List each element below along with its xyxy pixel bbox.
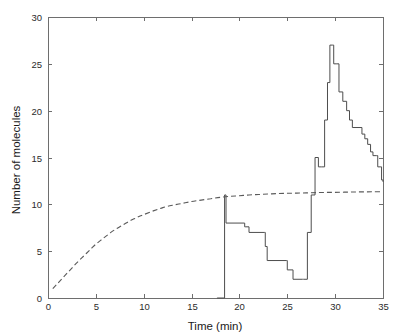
x-tick-label: 30 bbox=[330, 301, 341, 312]
x-axis-label: Time (min) bbox=[188, 320, 243, 332]
chart-figure: 05101520253035051015202530 Time (min) Nu… bbox=[0, 0, 397, 336]
y-tick-label: 20 bbox=[31, 106, 42, 117]
series-layer bbox=[53, 45, 383, 298]
y-tick-label: 30 bbox=[31, 12, 42, 23]
y-axis-label: Number of molecules bbox=[10, 105, 22, 214]
plot-canvas: 05101520253035051015202530 Time (min) Nu… bbox=[0, 0, 397, 336]
x-tick-label: 10 bbox=[139, 301, 150, 312]
tick-labels: 05101520253035051015202530 bbox=[31, 12, 388, 312]
x-tick-label: 25 bbox=[282, 301, 293, 312]
x-tick-label: 35 bbox=[378, 301, 389, 312]
y-tick-label: 10 bbox=[31, 199, 42, 210]
x-tick-label: 0 bbox=[46, 301, 51, 312]
y-tick-label: 0 bbox=[37, 293, 42, 304]
tick-marks bbox=[48, 17, 384, 299]
series-deterministic-mean bbox=[53, 192, 383, 289]
y-tick-label: 15 bbox=[31, 153, 42, 164]
y-tick-label: 25 bbox=[31, 59, 42, 70]
y-tick-label: 5 bbox=[37, 246, 42, 257]
series-stochastic-trajectory bbox=[217, 45, 383, 298]
x-tick-label: 15 bbox=[187, 301, 198, 312]
x-tick-label: 5 bbox=[94, 301, 99, 312]
x-tick-label: 20 bbox=[234, 301, 245, 312]
